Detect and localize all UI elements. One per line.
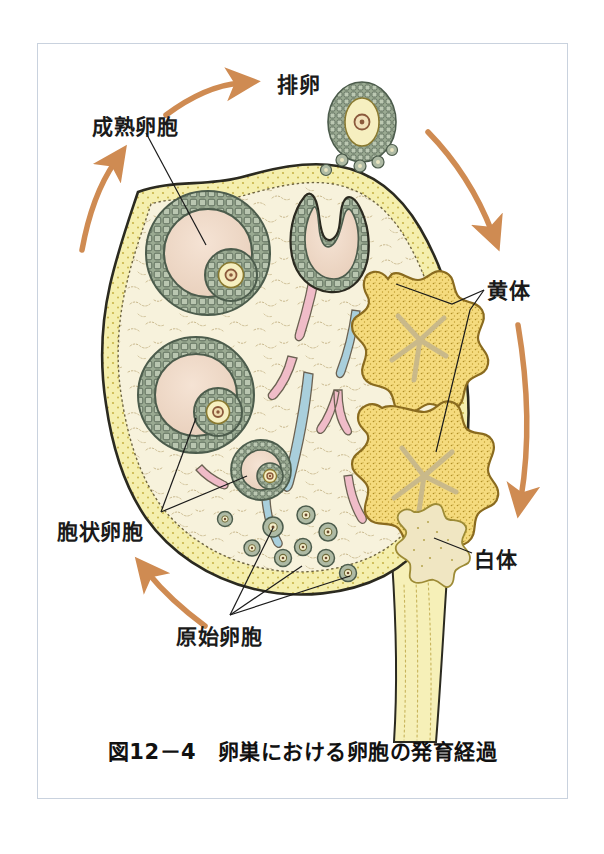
label-mature-follicle: 成熟卵胞 (92, 110, 178, 140)
primordial-follicle (297, 506, 315, 524)
arrow-left-upward-icon (82, 162, 115, 250)
figure-caption: 図12－4 卵巣における卵胞の発育経過 (37, 735, 568, 765)
figure-page: 排卵 成熟卵胞 黄体 白体 胞状卵胞 原始卵胞 図12－4 卵巣における卵胞の発… (0, 0, 604, 854)
label-primordial-follicle: 原始卵胞 (176, 620, 262, 650)
mature-follicle-upper-left (146, 191, 270, 315)
oocyte-nucleolus (360, 120, 365, 125)
primordial-follicle (319, 523, 337, 541)
label-antral-follicle: 胞状卵胞 (57, 515, 143, 545)
primordial-follicle (244, 540, 260, 556)
ovary-body (102, 164, 498, 742)
secondary-follicle (231, 440, 291, 500)
arrow-bottom-left-upward-icon (148, 573, 205, 626)
primordial-follicle (275, 550, 292, 567)
ovarian-stalk (392, 560, 448, 742)
mature-follicle-lower-left (138, 337, 254, 453)
arrow-right-from-ovulation-icon (428, 132, 492, 232)
label-ovulation: 排卵 (277, 68, 320, 98)
arrow-right-downward-icon (518, 325, 527, 498)
primordial-follicle (263, 517, 283, 537)
primordial-follicle (318, 550, 335, 567)
label-corpus-luteum: 黄体 (487, 274, 530, 304)
released-oocyte (321, 82, 398, 176)
ovary-diagram (0, 0, 604, 854)
primordial-follicle (295, 539, 312, 556)
primordial-follicle (218, 512, 233, 527)
label-corpus-albicans: 白体 (474, 543, 517, 573)
